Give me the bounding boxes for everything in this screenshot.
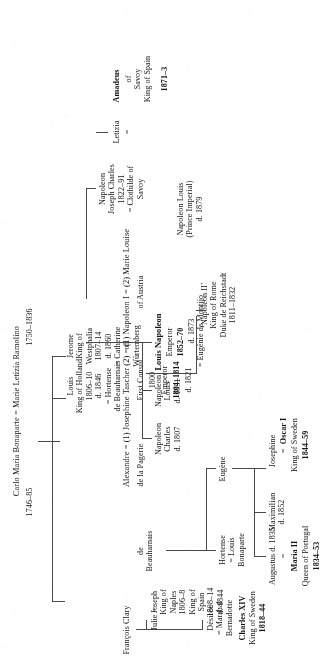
drop-augustus (254, 556, 266, 557)
amadeus-reign: 1871–3 (160, 41, 169, 117)
amadeus-name: Amadeus (112, 55, 121, 117)
louis-napoleon-rest: d. 1873 = Eugénie de Montijo (187, 283, 206, 379)
prince-imperial-block: Napoleon Louis (Prince Imperial) d. 1879 (176, 161, 204, 257)
oscar-i-title: King of Sweden (290, 401, 299, 489)
beauharnais-stem (166, 550, 206, 551)
eugene-child-spine (254, 469, 255, 557)
louis-napoleon-name: Louis Napoleon (154, 305, 164, 379)
maria-ii-title: Queen of Portugal (301, 509, 310, 603)
drop-julie (146, 620, 147, 630)
gen2-sibling-spine (52, 357, 53, 602)
drop-hortense (206, 550, 216, 551)
louis-napoleon-title: Emperor (165, 305, 174, 379)
drop-louis-nap (142, 342, 152, 343)
alexandre-sub: de Beauharnais (136, 515, 155, 587)
drop-jerome (52, 356, 66, 357)
holland-spine (142, 343, 143, 439)
beauharnais-spine (206, 469, 207, 551)
maria-ii-name: Maria II (290, 509, 299, 603)
eugene-label: Eugène (218, 441, 227, 497)
joseph-block: Joseph King of Naples 1806–8 King of Spa… (150, 571, 225, 633)
prince-imperial-stem (196, 310, 206, 311)
root-couple-label: Carlo Maria Bonaparte = Marie Letizia Ra… (12, 261, 22, 561)
oscar-i-reign: 1844–59 (301, 401, 310, 489)
drop-napoleon (52, 441, 60, 442)
drop-nap-charles (142, 438, 152, 439)
letizia-stem (96, 132, 108, 133)
family-tree-canvas: Carlo Maria Bonaparte = Marie Letizia Ra… (0, 0, 333, 657)
amadeus-rest: of Savoy King of Spain (124, 41, 152, 117)
eugene-descent-stem (232, 468, 254, 469)
holland-stem (86, 342, 142, 343)
drop-joseph (52, 601, 65, 602)
clary-stem (136, 629, 146, 630)
maria-ii-reign: 1834–53 (312, 509, 321, 603)
francois-clary-label: François Clary (122, 595, 131, 657)
drop-louis (52, 398, 66, 399)
jerome-descent (86, 189, 87, 299)
hortense-block: Hortense = Louis Bonaparte (218, 517, 246, 583)
drop-eugene (206, 468, 216, 469)
josephine-label: Josephine (268, 413, 277, 489)
drop-maximilian (254, 512, 266, 513)
jerome-stem (86, 188, 96, 189)
root-mother-dates: 1750–1836 (25, 287, 34, 367)
drop-josephine (254, 468, 266, 469)
drop-nap-louis (142, 390, 152, 391)
louis-napoleon-reign: 1852–70 (176, 305, 185, 379)
root-descent-stem (38, 441, 52, 442)
charles-xiv-reign: 1818–44 (258, 575, 267, 657)
charles-xiv-name: Charles XIV (238, 575, 247, 657)
napoleon-joseph-block: Napoleon Joseph Charles 1822–91 = Clothi… (98, 141, 145, 237)
josephine-sub: de la Pagerie (136, 419, 145, 511)
charles-xiv-title: King of Sweden (248, 575, 257, 657)
root-father-dates: 1746–85 (25, 467, 34, 537)
jerome-westphalia-block: Jerome King of Westphalia 1807–14 d. 186… (66, 307, 141, 385)
oscar-i-name: Oscar I (279, 401, 288, 461)
